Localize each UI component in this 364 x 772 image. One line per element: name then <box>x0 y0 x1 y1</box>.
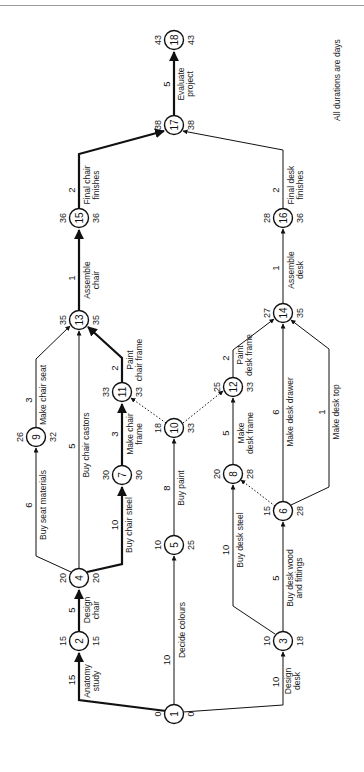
node-id: 5 <box>169 542 180 548</box>
duration-make-chair-seat: 3 <box>23 397 34 402</box>
nodes: 1 0 0 2 15 15 3 10 18 4 20 20 5 10 25 <box>15 31 305 724</box>
node-id: 7 <box>117 472 128 478</box>
node-id: 12 <box>228 381 239 393</box>
node-late-time: 30 <box>134 470 144 480</box>
edge-design-desk <box>183 652 283 712</box>
label-final-chair-finishes: Final chairfinishes <box>82 165 101 204</box>
node-id: 1 <box>169 711 180 717</box>
duration-assemble-desk: 1 <box>270 265 281 270</box>
duration-buy-chair-castors: 5 <box>66 443 77 448</box>
duration-buy-paint: 8 <box>161 485 172 490</box>
node-late-time: 33 <box>186 423 196 433</box>
node-10: 10 18 33 <box>153 419 196 438</box>
node-late-time: 0 <box>186 711 196 716</box>
dummy-10-12 <box>183 391 223 423</box>
label-design-chair: Designchair <box>82 597 101 624</box>
edge-final-desk-finishes <box>183 131 283 208</box>
label-anatomy-study: Anatomystudy <box>82 663 101 697</box>
duration-design-chair: 5 <box>66 607 77 612</box>
node-early-time: 38 <box>153 120 163 130</box>
node-6: 6 15 28 <box>262 502 305 521</box>
node-5: 5 10 25 <box>153 536 196 555</box>
node-early-time: 10 <box>153 540 163 550</box>
label-evaluate-project: Evaluateproject <box>176 67 195 100</box>
duration-make-desk-frame: 5 <box>220 430 231 435</box>
node-early-time: 25 <box>212 382 222 392</box>
label-make-desk-drawer: Make desk drawer <box>285 377 295 447</box>
node-1: 1 0 0 <box>153 705 196 724</box>
node-early-time: 10 <box>262 636 272 646</box>
duration-buy-desk-steel: 10 <box>220 545 231 556</box>
duration-paint-chair-frame: 2 <box>109 365 120 370</box>
node-late-time: 32 <box>48 432 58 442</box>
node-id: 2 <box>74 638 85 644</box>
node-7: 7 30 30 <box>101 466 144 485</box>
node-early-time: 33 <box>101 387 111 397</box>
duration-anatomy-study: 15 <box>66 675 77 686</box>
node-14: 14 27 35 <box>262 304 305 323</box>
node-late-time: 28 <box>295 506 305 516</box>
node-early-time: 27 <box>262 308 272 318</box>
duration-evaluate-project: 5 <box>161 81 172 86</box>
node-late-time: 33 <box>134 387 144 397</box>
node-early-time: 30 <box>101 470 111 480</box>
durations-note: All durations are days <box>332 39 342 121</box>
node-late-time: 20 <box>91 573 101 583</box>
node-id: 8 <box>228 471 239 477</box>
duration-decide-colours: 10 <box>161 655 172 666</box>
node-id: 3 <box>278 638 289 644</box>
label-make-desk-frame: Makedesk frame <box>236 412 255 454</box>
label-buy-desk-wood: Buy desk woodand fittings <box>285 549 304 607</box>
node-early-time: 15 <box>262 506 272 516</box>
duration-final-desk-finishes: 2 <box>270 187 281 192</box>
node-late-time: 43 <box>186 35 196 45</box>
node-16: 16 28 36 <box>262 209 305 228</box>
node-id: 15 <box>74 212 85 224</box>
duration-design-desk: 10 <box>270 677 281 688</box>
node-early-time: 18 <box>153 423 163 433</box>
node-early-time: 20 <box>58 573 68 583</box>
node-late-time: 15 <box>91 636 101 646</box>
node-early-time: 26 <box>15 432 25 442</box>
activity-labels: 15 Anatomystudy 10 Decide colours 10 Des… <box>23 67 341 698</box>
duration-make-desk-drawer: 6 <box>270 409 281 414</box>
node-late-time: 38 <box>186 120 196 130</box>
duration-buy-desk-wood: 5 <box>270 575 281 580</box>
node-late-time: 28 <box>245 469 255 479</box>
node-id: 17 <box>169 119 180 131</box>
label-paint-chair-frame: Paintchair frame <box>125 338 144 381</box>
node-id: 18 <box>169 34 180 46</box>
node-18: 18 43 43 <box>153 31 196 50</box>
node-id: 11 <box>117 386 128 397</box>
edge-paint-chair-frame <box>88 327 122 382</box>
label-buy-chair-steel: Buy chair steel <box>124 497 134 553</box>
node-id: 4 <box>74 575 85 581</box>
duration-paint-desk-frame: 2 <box>220 355 231 360</box>
duration-assemble-chair: 1 <box>66 275 77 280</box>
node-id: 9 <box>31 434 42 440</box>
label-make-chair-seat: Make chair seat <box>38 364 48 425</box>
node-late-time: 18 <box>295 636 305 646</box>
node-late-time: 25 <box>186 540 196 550</box>
node-id: 16 <box>278 212 289 224</box>
node-late-time: 35 <box>91 315 101 325</box>
node-id: 6 <box>278 508 289 514</box>
node-id: 10 <box>169 422 180 434</box>
node-early-time: 36 <box>58 213 68 223</box>
label-make-chair-frame: Make chairframe <box>125 413 144 455</box>
node-id: 14 <box>278 307 289 319</box>
node-early-time: 20 <box>212 469 222 479</box>
duration-make-chair-frame: 3 <box>109 431 120 436</box>
node-early-time: 15 <box>58 636 68 646</box>
label-buy-desk-steel: Buy desk steel <box>235 512 245 567</box>
node-late-time: 36 <box>295 213 305 223</box>
node-id: 13 <box>74 314 85 326</box>
label-buy-seat-materials: Buy seat materials <box>38 470 48 540</box>
activity-network-diagram: 15 Anatomystudy 10 Decide colours 10 Des… <box>0 0 364 772</box>
duration-buy-seat-materials: 6 <box>23 502 34 507</box>
node-early-time: 0 <box>153 711 163 716</box>
node-3: 3 10 18 <box>262 632 305 651</box>
node-late-time: 35 <box>295 308 305 318</box>
node-early-time: 28 <box>262 213 272 223</box>
node-2: 2 15 15 <box>58 632 101 651</box>
